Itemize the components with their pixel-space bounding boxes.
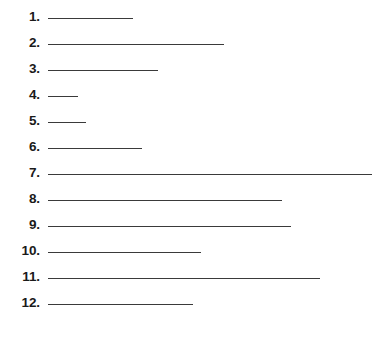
row-number-label: 6. <box>0 140 40 154</box>
row-number-label: 3. <box>0 62 40 76</box>
row-number-label: 4. <box>0 88 40 102</box>
row-number-label: 10. <box>0 244 40 258</box>
answer-row[interactable]: 1. <box>0 10 382 36</box>
answer-row[interactable]: 5. <box>0 114 382 140</box>
answer-row[interactable]: 3. <box>0 62 382 88</box>
row-number-label: 9. <box>0 218 40 232</box>
answer-write-in-line[interactable] <box>48 226 291 227</box>
row-number-label: 7. <box>0 166 40 180</box>
row-number-label: 8. <box>0 192 40 206</box>
answer-row[interactable]: 10. <box>0 244 382 270</box>
answer-row[interactable]: 2. <box>0 36 382 62</box>
answer-write-in-line[interactable] <box>48 304 193 305</box>
answer-write-in-line[interactable] <box>48 148 142 149</box>
answer-write-in-line[interactable] <box>48 44 224 45</box>
answer-write-in-line[interactable] <box>48 70 158 71</box>
row-number-label: 5. <box>0 114 40 128</box>
answer-row[interactable]: 7. <box>0 166 382 192</box>
answer-write-in-line[interactable] <box>48 252 201 253</box>
answer-row[interactable]: 6. <box>0 140 382 166</box>
row-number-label: 11. <box>0 270 40 284</box>
row-number-label: 1. <box>0 10 40 24</box>
answer-row[interactable]: 8. <box>0 192 382 218</box>
answer-sheet: 1.2.3.4.5.6.7.8.9.10.11.12. <box>0 0 382 352</box>
answer-row[interactable]: 4. <box>0 88 382 114</box>
answer-write-in-line[interactable] <box>48 278 320 279</box>
answer-row[interactable]: 9. <box>0 218 382 244</box>
row-number-label: 2. <box>0 36 40 50</box>
answer-write-in-line[interactable] <box>48 174 372 175</box>
answer-write-in-line[interactable] <box>48 122 86 123</box>
answer-write-in-line[interactable] <box>48 96 78 97</box>
answer-row[interactable]: 12. <box>0 296 382 322</box>
answer-write-in-line[interactable] <box>48 200 282 201</box>
answer-row[interactable]: 11. <box>0 270 382 296</box>
row-number-label: 12. <box>0 296 40 310</box>
answer-write-in-line[interactable] <box>48 18 133 19</box>
